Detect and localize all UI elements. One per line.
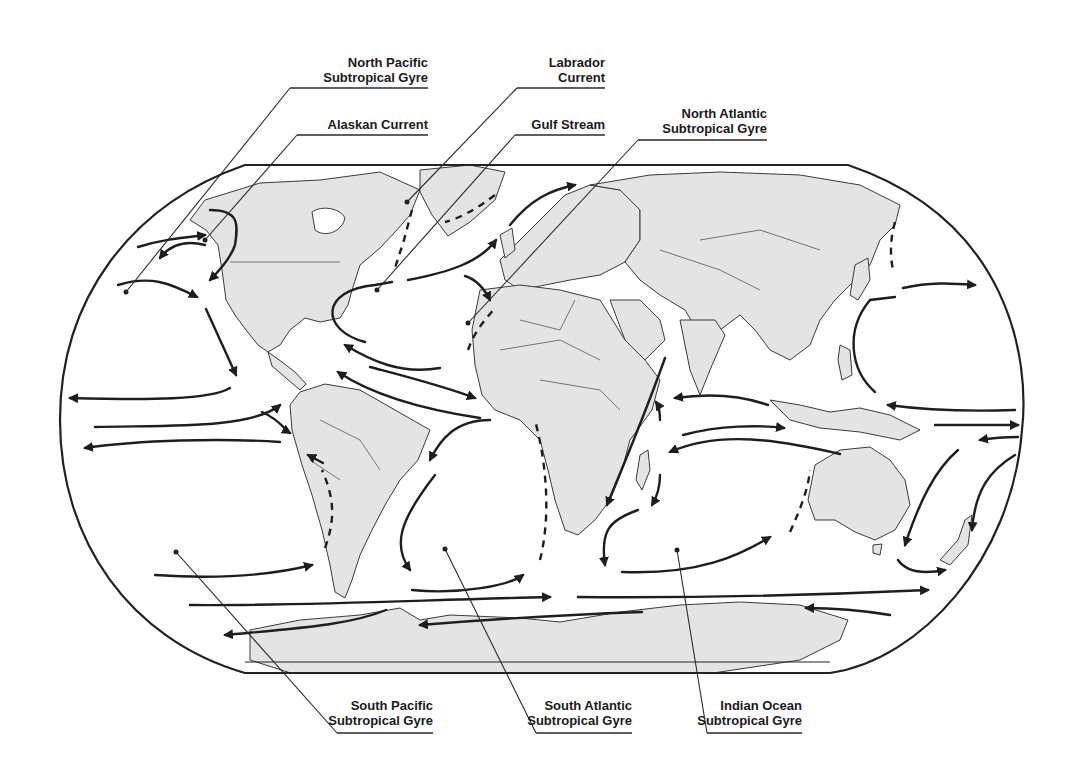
- label-line2: Subtropical Gyre: [256, 70, 428, 85]
- label-south-atlantic-gyre: South Atlantic Subtropical Gyre: [512, 698, 632, 728]
- label-line1: Gulf Stream: [505, 117, 605, 132]
- label-labrador-current: Labrador Current: [505, 55, 605, 85]
- label-line1: South Atlantic: [512, 698, 632, 713]
- label-line1: North Atlantic: [627, 106, 767, 121]
- new-zealand: [940, 515, 972, 565]
- label-line2: Subtropical Gyre: [323, 713, 433, 728]
- label-alaskan-current: Alaskan Current: [256, 117, 428, 132]
- australia: [808, 447, 910, 540]
- label-indian-ocean-gyre: Indian Ocean Subtropical Gyre: [682, 698, 802, 728]
- label-line2: Subtropical Gyre: [627, 121, 767, 136]
- label-line1: South Pacific: [323, 698, 433, 713]
- antarctica: [250, 602, 848, 678]
- land-masses: [190, 165, 972, 678]
- label-line1: Labrador: [505, 55, 605, 70]
- europe: [500, 185, 640, 290]
- india: [680, 320, 725, 395]
- label-line1: Indian Ocean: [682, 698, 802, 713]
- label-gulf-stream: Gulf Stream: [505, 117, 605, 132]
- label-north-pacific-gyre: North Pacific Subtropical Gyre: [256, 55, 428, 85]
- label-line2: Current: [505, 70, 605, 85]
- philippines: [838, 345, 852, 380]
- madagascar: [636, 450, 650, 490]
- label-line2: Subtropical Gyre: [682, 713, 802, 728]
- tasmania: [873, 544, 882, 555]
- label-line1: North Pacific: [256, 55, 428, 70]
- central-america: [268, 352, 306, 390]
- label-north-atlantic-gyre: North Atlantic Subtropical Gyre: [627, 106, 767, 136]
- label-south-pacific-gyre: South Pacific Subtropical Gyre: [323, 698, 433, 728]
- label-line2: Subtropical Gyre: [512, 713, 632, 728]
- label-line1: Alaskan Current: [256, 117, 428, 132]
